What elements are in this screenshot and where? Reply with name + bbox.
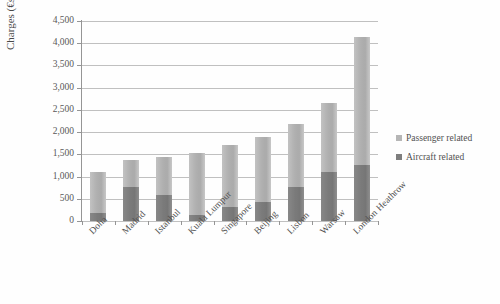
y-axis-tick-label: 4,000 [34,38,74,48]
bar-segment-passenger-related [189,153,205,215]
y-axis-tick-label: 500 [34,194,74,204]
bar-beijing [255,137,271,221]
x-axis-tick [181,221,182,225]
bar-segment-passenger-related [255,137,271,203]
legend-swatch-icon [396,135,402,141]
y-axis-tick-label: 3,500 [34,60,74,70]
bar-segment-passenger-related [321,103,337,172]
plot-area [82,21,378,221]
y-axis-tick-label: 0 [34,216,74,226]
legend: Passenger relatedAircraft related [396,133,472,171]
legend-label: Aircraft related [406,152,464,162]
legend-item: Passenger related [396,133,472,143]
x-axis-tick [115,221,116,225]
bar-segment-passenger-related [90,172,106,213]
x-axis-tick [148,221,149,225]
legend-label: Passenger related [406,133,472,143]
y-axis-tick-label: 2,000 [34,127,74,137]
x-axis-tick [345,221,346,225]
bar-segment-passenger-related [123,160,139,187]
bar-segment-passenger-related [288,124,304,186]
bar-segment-passenger-related [354,37,370,166]
legend-item: Aircraft related [396,152,472,162]
bar-doha [90,172,106,221]
bar-chart: Charges (€s) 4,5004,0003,5003,0002,5002,… [0,0,500,304]
x-axis-tick [82,221,83,225]
bar-london-heathrow [354,37,370,221]
y-axis-tick-label: 1,000 [34,172,74,182]
x-axis-tick [279,221,280,225]
x-axis-tick [378,221,379,225]
legend-swatch-icon [396,154,402,160]
bar-lisbon [288,124,304,221]
x-axis-tick [312,221,313,225]
bar-singapore [222,145,238,221]
bar-segment-passenger-related [156,157,172,196]
y-axis-tick-label: 2,500 [34,105,74,115]
x-axis-tick [246,221,247,225]
bar-warsaw [321,103,337,221]
y-axis-tick-label: 1,500 [34,149,74,159]
y-axis-title: Charges (€s) [4,0,16,50]
y-axis-tick-label: 4,500 [34,16,74,26]
x-axis-tick [214,221,215,225]
y-axis-tick-label: 3,000 [34,83,74,93]
